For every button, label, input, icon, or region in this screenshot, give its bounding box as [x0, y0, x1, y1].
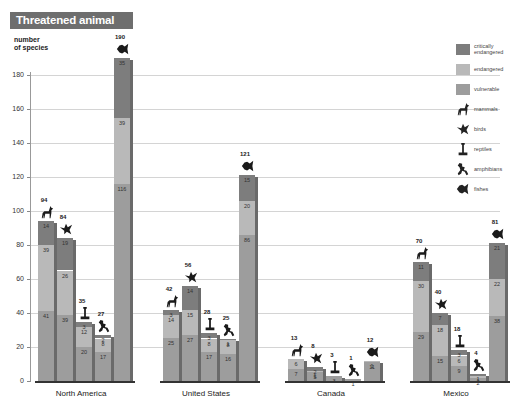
- wolf-icon: [456, 102, 470, 116]
- bar-total-label: 28: [197, 309, 217, 315]
- bar-mammals: 25143: [163, 310, 179, 381]
- bird-icon: [183, 270, 199, 284]
- segment-value: 1: [370, 363, 373, 369]
- bar-birds: 512: [307, 367, 323, 381]
- legend-label: mammals: [474, 106, 498, 113]
- bar-total-label: 1: [341, 355, 361, 361]
- segment-endangered: 39: [114, 118, 130, 184]
- legend-item-fishes: fishes: [456, 180, 516, 198]
- bar-fishes: 382221: [489, 243, 505, 381]
- legend-label: critically endangered: [474, 43, 516, 56]
- segment-value: 3: [457, 352, 460, 358]
- bar-total-label: 13: [284, 335, 304, 341]
- segment-vulnerable: 17: [201, 352, 217, 381]
- gridline: [30, 109, 500, 110]
- x-category-label: United States: [156, 389, 256, 398]
- segment-value: 22: [494, 281, 500, 287]
- wolf-icon: [164, 294, 180, 308]
- segment-critically-endangered: 15: [239, 175, 255, 201]
- segment-value: 38: [494, 318, 500, 324]
- segment-value: 116: [118, 186, 127, 192]
- segment-value: 17: [206, 354, 212, 360]
- segment-value: 25: [168, 340, 174, 346]
- segment-value: 3: [169, 312, 172, 318]
- segment-critically-endangered: 3: [163, 310, 179, 315]
- wolf-icon: [414, 246, 430, 260]
- segment-endangered: 30: [413, 281, 429, 332]
- bar-fishes: 111: [364, 361, 380, 381]
- gridline: [30, 211, 500, 212]
- segment-endangered: 6: [288, 359, 304, 369]
- segment-value: 3: [207, 335, 210, 341]
- segment-vulnerable: 20: [76, 347, 92, 381]
- segment-vulnerable: 39: [57, 315, 73, 381]
- bar-total-label: 81: [485, 219, 505, 225]
- segment-value: 18: [437, 327, 443, 333]
- gridline: [30, 177, 500, 178]
- y-axis-label-line1: number: [14, 36, 48, 44]
- segment-endangered: 20: [239, 201, 255, 235]
- segment-critically-endangered: 7: [432, 313, 448, 325]
- bar-total-label: 12: [360, 337, 380, 343]
- bar-total-label: 56: [178, 262, 198, 268]
- segment-endangered: 26: [57, 271, 73, 315]
- segment-critically-endangered: 1: [470, 374, 486, 376]
- bar-amphibians: 1: [345, 379, 361, 381]
- segment-vulnerable: 116: [114, 184, 130, 381]
- segment-value: 14: [187, 288, 193, 294]
- bar-shadow: [130, 60, 133, 381]
- bar-shadow: [505, 245, 508, 381]
- bar-reptiles: 1783: [201, 333, 217, 381]
- segment-value: 1: [226, 341, 229, 347]
- segment-value: 35: [119, 60, 125, 66]
- bird-icon: [433, 297, 449, 311]
- segment-value: 1: [351, 381, 354, 387]
- bar-total-label: 25: [216, 315, 236, 321]
- segment-value: 3: [82, 324, 85, 330]
- segment-value: 21: [494, 245, 500, 251]
- segment-value: 16: [225, 356, 231, 362]
- bar-total-label: 190: [110, 34, 130, 40]
- frog-icon: [221, 323, 237, 337]
- bar-total-label: 35: [72, 298, 92, 304]
- legend-item-vulnerable: vulnerable: [456, 80, 516, 98]
- segment-value: 11: [418, 264, 424, 270]
- legend-item-reptiles: reptiles: [456, 140, 516, 158]
- bar-total-label: 8: [303, 343, 323, 349]
- legend-item-amphibians: amphibians: [456, 160, 516, 178]
- segment-value: 9: [457, 368, 460, 374]
- bar-total-label: 94: [34, 197, 54, 203]
- cobra-icon: [327, 360, 343, 374]
- x-category-label: North America: [31, 389, 131, 398]
- cobra-icon: [452, 334, 468, 348]
- fish-icon: [240, 159, 256, 173]
- y-tick-label: 120: [0, 173, 24, 180]
- gridline: [30, 75, 500, 76]
- segment-vulnerable: 38: [489, 316, 505, 381]
- bar-amphibians: 1681: [220, 339, 236, 382]
- segment-value: 20: [81, 349, 87, 355]
- segment-critically-endangered: 3: [76, 322, 92, 327]
- segment-value: 15: [187, 312, 193, 318]
- legend-label: reptiles: [474, 146, 492, 153]
- legend: critically endangered endangered vulnera…: [456, 40, 516, 200]
- bar-mammals: 76: [288, 359, 304, 381]
- segment-endangered: 22: [489, 279, 505, 316]
- segment-vulnerable: 7: [288, 369, 304, 381]
- segment-value: 1: [476, 376, 479, 382]
- bar-shadow: [380, 363, 383, 381]
- fish-icon: [365, 345, 381, 359]
- legend-label: vulnerable: [474, 86, 499, 93]
- x-category-label: Canada: [281, 389, 381, 398]
- bar-birds: 392619: [57, 238, 73, 381]
- segment-vulnerable: 29: [413, 332, 429, 381]
- segment-critically-endangered: 1: [220, 339, 236, 341]
- group-baseline: [410, 381, 510, 383]
- bar-birds: 15187: [432, 313, 448, 381]
- segment-value: 2: [313, 369, 316, 375]
- segment-value: 30: [418, 283, 424, 289]
- segment-vulnerable: 25: [163, 338, 179, 381]
- segment-endangered: 15: [182, 310, 198, 336]
- segment-value: 14: [43, 223, 49, 229]
- frog-icon: [346, 363, 362, 377]
